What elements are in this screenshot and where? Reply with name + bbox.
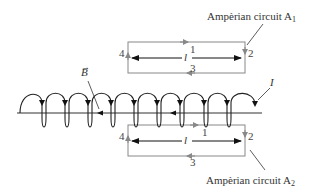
amperian-circuit-a2 bbox=[128, 125, 265, 170]
circuit-a1-length: l bbox=[184, 52, 187, 63]
vector-arrow-icon: → bbox=[81, 63, 90, 72]
b-field-pointer bbox=[88, 81, 99, 109]
circuit-a1-side-4: 4 bbox=[119, 48, 125, 59]
solenoid-diagram bbox=[0, 0, 318, 193]
circuit-a2-side-1: 1 bbox=[202, 127, 208, 138]
circuit-a2-label: Ampèrian circuit A2 bbox=[206, 175, 295, 188]
circuit-a1-side-1: 1 bbox=[190, 44, 196, 55]
circuit-a2-side-2: 2 bbox=[248, 131, 254, 142]
solenoid-coil bbox=[20, 93, 258, 127]
circuit-a1-side-2: 2 bbox=[248, 48, 254, 59]
circuit-a1-side-3: 3 bbox=[190, 63, 196, 74]
current-pointer bbox=[258, 88, 270, 100]
b-field-label: → B bbox=[81, 67, 88, 78]
current-label: I bbox=[270, 77, 274, 88]
circuit-a2-side-4: 4 bbox=[119, 131, 125, 142]
circuit-a2-length: l bbox=[184, 135, 187, 146]
solenoid-axis bbox=[17, 111, 262, 116]
circuit-a2-side-3: 3 bbox=[190, 157, 196, 168]
circuit-a1-label: Ampèrian circuit A1 bbox=[207, 11, 296, 24]
